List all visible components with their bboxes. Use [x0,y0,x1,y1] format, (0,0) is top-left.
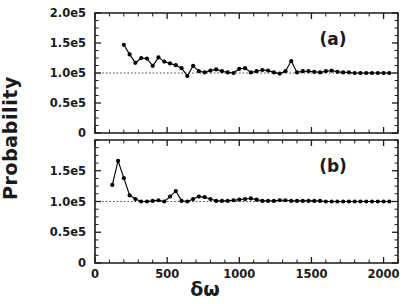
data-point [295,70,299,74]
data-point [208,197,212,201]
data-point [122,43,126,47]
data-point [243,66,247,70]
data-point [318,199,322,203]
data-point [156,55,160,59]
data-point [387,71,391,75]
data-point [249,196,253,200]
data-point [162,199,166,203]
y-tick-label: 1.0e5 [50,66,86,80]
data-point [128,193,132,197]
x-tick-label: 2000 [368,267,400,281]
data-point [243,197,247,201]
data-point [370,199,374,203]
data-point [387,199,391,203]
data-point [289,199,293,203]
plot-canvas: 00.5e51.0e51.5e52.0e5(a) 00.5e51.0e51.5e… [0,0,411,304]
data-point [191,197,195,201]
data-point [110,183,114,187]
data-point [128,52,132,56]
panel-tag-a: (a) [319,29,346,49]
data-point [145,199,149,203]
data-point [231,71,235,75]
data-point [214,67,218,71]
data-point [208,69,212,73]
data-point [174,63,178,67]
y-axis-title: Probability [0,76,21,200]
data-point [220,69,224,73]
data-point [133,61,137,65]
figure-labels: δωProbability [0,76,220,300]
data-point [139,56,143,60]
data-point [335,70,339,74]
data-point [179,66,183,70]
data-point [255,69,259,73]
data-point [116,159,120,163]
data-point [249,70,253,74]
data-point [381,199,385,203]
data-point [191,64,195,68]
data-point [283,69,287,73]
data-point [283,198,287,202]
data-point [266,69,270,73]
data-point [353,71,357,75]
data-point [237,67,241,71]
data-point [347,199,351,203]
panel-b: 00.5e51.0e51.5e50500100015002000(b) [50,140,400,281]
data-point [381,71,385,75]
data-point [358,71,362,75]
x-axis-title: δω [190,278,220,300]
data-point [203,195,207,199]
data-point [306,69,310,73]
data-point [306,199,310,203]
data-point [162,60,166,64]
data-point [341,199,345,203]
data-point [341,70,345,74]
data-point [151,199,155,203]
y-tick-label: 0 [78,126,86,140]
data-point [330,69,334,73]
x-tick-label: 0 [91,267,99,281]
data-series-line [112,161,389,202]
data-point [220,199,224,203]
panel-a: 00.5e51.0e51.5e52.0e5(a) [50,6,398,140]
data-point [370,71,374,75]
data-point [260,199,264,203]
data-point [168,61,172,65]
x-tick-label: 1500 [295,267,327,281]
x-tick-label: 1000 [223,267,255,281]
data-point [185,74,189,78]
figure-container: 00.5e51.0e51.5e52.0e5(a) 00.5e51.0e51.5e… [0,0,411,304]
data-point [151,64,155,68]
data-point [133,197,137,201]
data-point [179,199,183,203]
data-point [278,72,282,76]
data-point [156,198,160,202]
x-tick-label: 500 [155,267,179,281]
y-tick-label: 2.0e5 [50,6,86,20]
data-point [139,199,143,203]
data-point [185,199,189,203]
data-point [272,199,276,203]
data-point [301,199,305,203]
data-point [272,70,276,74]
y-tick-label: 1.0e5 [50,195,86,209]
panel-tag-b: (b) [319,156,347,176]
data-point [266,199,270,203]
data-point [289,59,293,63]
data-point [301,69,305,73]
data-point [324,199,328,203]
y-tick-label: 0.5e5 [50,96,86,110]
y-tick-label: 0 [78,256,86,270]
data-point [330,199,334,203]
y-tick-label: 1.5e5 [50,36,86,50]
data-point [376,71,380,75]
data-point [295,199,299,203]
data-point [237,198,241,202]
data-point [260,68,264,72]
data-point [174,189,178,193]
data-point [197,69,201,73]
data-point [353,199,357,203]
data-point [226,199,230,203]
data-point [197,194,201,198]
data-point [168,194,172,198]
